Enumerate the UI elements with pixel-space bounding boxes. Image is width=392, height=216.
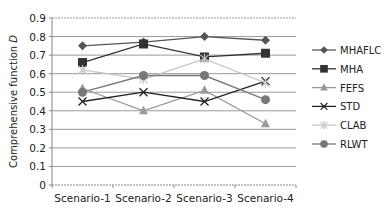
legend-label: RLWT [340, 139, 368, 150]
y-axis-ticks: 00.10.20.30.40.50.60.70.80.9 [29, 12, 52, 191]
triangle-marker-icon [261, 119, 270, 128]
legend-item-std: STD [312, 101, 360, 112]
legend-label: CLAB [340, 120, 367, 131]
legend-label: FEFS [340, 83, 364, 94]
y-axis-title: Comprehensive function D [8, 35, 19, 168]
triangle-marker-icon [200, 85, 209, 94]
x-axis-ticks: Scenario-1Scenario-2Scenario-3Scenario-4 [52, 185, 296, 204]
legend-item-clab: CLAB [312, 120, 367, 131]
square-marker-icon [261, 49, 270, 58]
x-tick-label: Scenario-2 [115, 192, 171, 204]
diamond-marker-icon [78, 41, 87, 50]
square-marker-icon [139, 39, 148, 48]
series-line [83, 37, 266, 46]
series-clab [79, 54, 270, 88]
legend-item-fefs: FEFS [312, 83, 364, 94]
axes [52, 18, 296, 185]
series-line [83, 89, 266, 124]
diamond-marker-icon [261, 36, 270, 45]
y-tick-label: 0.4 [29, 105, 46, 117]
y-tick-label: 0.1 [29, 160, 46, 172]
diamond-marker-icon [200, 32, 209, 41]
y-tick-label: 0.9 [29, 12, 46, 24]
circle-marker-icon [139, 71, 148, 80]
y-tick-label: 0.3 [29, 123, 46, 135]
series-lines [78, 32, 270, 127]
asterisk-marker-icon [262, 78, 270, 88]
y-tick-label: 0.7 [29, 49, 46, 61]
circle-marker-icon [320, 140, 328, 148]
series-line [83, 76, 266, 100]
y-tick-label: 0.8 [29, 31, 46, 43]
circle-marker-icon [261, 95, 270, 104]
series-mha [78, 39, 270, 67]
legend-item-mhaflc: MHAFLC [312, 45, 381, 56]
legend-label: MHA [340, 64, 363, 75]
x-tick-label: Scenario-3 [176, 192, 232, 204]
legend-item-rlwt: RLWT [312, 139, 368, 150]
series-mhaflc [78, 32, 270, 50]
y-tick-label: 0.2 [29, 142, 46, 154]
series-line [83, 59, 266, 83]
x-tick-label: Scenario-1 [54, 192, 110, 204]
x-tick-label: Scenario-4 [237, 192, 294, 204]
circle-marker-icon [78, 88, 87, 97]
y-tick-label: 0.5 [29, 86, 46, 98]
diamond-marker-icon [320, 46, 328, 54]
circle-marker-icon [200, 71, 209, 80]
y-tick-label: 0 [39, 179, 46, 191]
line-chart: Comprehensive function D 00.10.20.30.40.… [0, 0, 392, 216]
legend-label: STD [340, 101, 360, 112]
y-tick-label: 0.6 [29, 68, 46, 80]
legend: MHAFLCMHAFEFSSTDCLABRLWT [312, 45, 381, 150]
y-axis-label: Comprehensive function D [8, 35, 19, 168]
square-marker-icon [320, 65, 328, 73]
legend-label: MHAFLC [340, 45, 381, 56]
series-rlwt [78, 71, 270, 104]
series-line [83, 44, 266, 63]
legend-item-mha: MHA [312, 64, 363, 75]
